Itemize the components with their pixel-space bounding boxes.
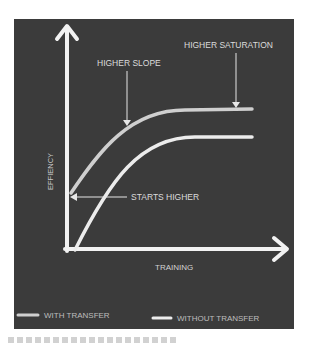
svg-text:HIGHER SATURATION: HIGHER SATURATION <box>184 40 273 50</box>
svg-text:WITH TRANSFER: WITH TRANSFER <box>44 311 110 320</box>
x-axis <box>65 238 287 260</box>
legend: WITH TRANSFER WITHOUT TRANSFER <box>18 311 260 323</box>
blurred-caption <box>8 337 178 343</box>
arrow-down-icon <box>232 102 240 108</box>
x-axis-label: TRAINING <box>155 263 193 272</box>
annotation-higher-saturation: HIGHER SATURATION <box>184 40 273 108</box>
y-axis-label: EFFIENCY <box>46 153 55 190</box>
y-axis <box>57 26 77 251</box>
legend-item-with-transfer: WITH TRANSFER <box>18 311 110 320</box>
svg-text:STARTS HIGHER: STARTS HIGHER <box>131 192 199 202</box>
curve-with-transfer <box>71 109 252 193</box>
svg-text:HIGHER SLOPE: HIGHER SLOPE <box>97 58 161 68</box>
svg-text:WITHOUT TRANSFER: WITHOUT TRANSFER <box>177 314 260 323</box>
transfer-learning-diagram: HIGHER SLOPE HIGHER SATURATION STARTS HI… <box>0 0 309 346</box>
annotation-starts-higher: STARTS HIGHER <box>70 192 199 202</box>
legend-item-without-transfer: WITHOUT TRANSFER <box>153 314 260 323</box>
